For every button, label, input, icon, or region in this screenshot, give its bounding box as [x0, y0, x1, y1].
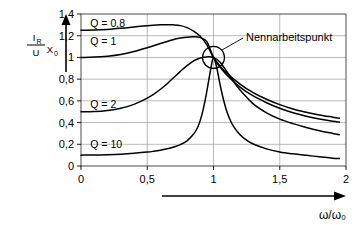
y-axis-tick-labels: 00,20,40,60,811,21,4	[59, 8, 74, 172]
series-label: Q = 1	[90, 35, 116, 47]
y-axis-tick-label: 1	[68, 51, 74, 63]
annotation-label: Nennarbeitspunkt	[246, 31, 332, 43]
series-labels: Q = 0,8Q = 1Q = 2Q = 10	[90, 17, 125, 150]
series-label: Q = 10	[90, 138, 122, 150]
y-axis-factor-subscript: 0	[54, 50, 58, 57]
y-axis-denominator: U	[33, 47, 40, 58]
x-axis-tick-label: 1	[210, 173, 216, 185]
x-axis-tick-label: 2	[343, 173, 349, 185]
y-axis-factor: X	[47, 44, 54, 55]
y-axis-tick-label: 0,2	[59, 138, 74, 150]
y-axis-numerator: I	[33, 32, 36, 43]
annotation-leader-line	[222, 38, 243, 50]
series-label: Q = 2	[90, 98, 116, 110]
y-axis-numerator-subscript: R	[36, 38, 41, 45]
y-axis-tick-label: 1,4	[59, 8, 74, 20]
nennarbeitspunkt-annotation: Nennarbeitspunkt	[203, 31, 333, 68]
y-axis-tick-label: 0	[68, 160, 74, 172]
x-axis-tick-label: 0,5	[140, 173, 155, 185]
y-axis-tick-label: 0,4	[59, 117, 74, 129]
y-axis-tick-label: 1,2	[59, 30, 74, 42]
resonance-curve-chart: I R U X 0 00,20,40,60,811,21,4 00,511,52…	[0, 0, 360, 229]
series-label: Q = 0,8	[90, 17, 125, 29]
chart-figure: I R U X 0 00,20,40,60,811,21,4 00,511,52…	[0, 0, 360, 229]
y-axis-tick-label: 0,6	[59, 95, 74, 107]
x-axis-tick-label: 1,5	[272, 173, 287, 185]
x-axis-tick-label: 0	[78, 173, 84, 185]
x-axis-arrow	[162, 192, 346, 201]
x-axis-title: ω/ω₀	[319, 208, 346, 222]
x-axis-tick-labels: 00,511,52	[78, 173, 349, 185]
y-axis-label: I R U X 0	[27, 32, 58, 58]
y-axis-tick-label: 0,8	[59, 73, 74, 85]
